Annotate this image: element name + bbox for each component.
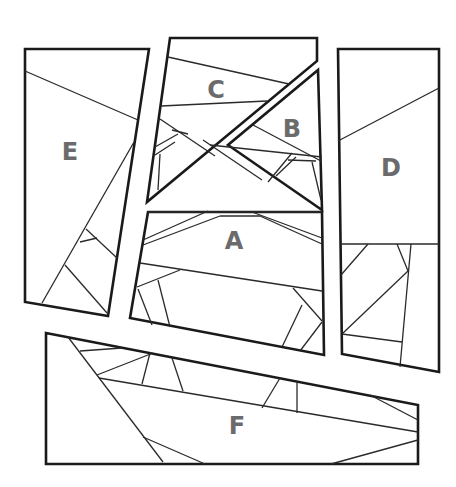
label-f: F [229, 412, 245, 440]
piece-a: A [130, 211, 324, 355]
label-c: C [207, 76, 225, 104]
puzzle-diagram: E C B [0, 0, 456, 487]
label-b: B [283, 115, 301, 143]
piece-e: E [25, 49, 149, 316]
piece-d: D [338, 49, 439, 372]
label-d: D [381, 154, 401, 182]
label-e: E [62, 138, 78, 166]
label-a: A [225, 227, 244, 255]
